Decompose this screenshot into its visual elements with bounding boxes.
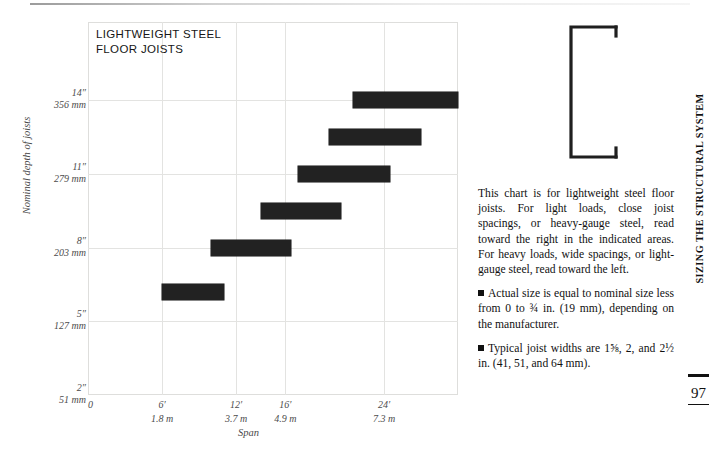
x-tick-feet: 6′ bbox=[127, 398, 197, 412]
y-tick-label: 2″51 mm bbox=[2, 382, 86, 406]
y-tick-metric: 203 mm bbox=[2, 247, 86, 259]
folio-rule-top bbox=[688, 374, 709, 377]
chart-x-axis: Span 06′1.8 m12′3.7 m16′4.9 m24′7.3 m bbox=[88, 398, 468, 438]
y-tick-inches: 8″ bbox=[2, 235, 86, 247]
x-tick-feet: 24′ bbox=[349, 398, 419, 412]
y-tick-inches: 11″ bbox=[2, 161, 86, 173]
y-tick-label: 8″203 mm bbox=[2, 235, 86, 259]
chart-x-axis-title: Span bbox=[238, 427, 259, 438]
y-tick-inches: 14″ bbox=[2, 87, 86, 99]
c-channel-section-diagram bbox=[566, 24, 622, 160]
chart-range-bar bbox=[298, 166, 391, 182]
y-tick-metric: 279 mm bbox=[2, 173, 86, 185]
scan-edge-artifact bbox=[30, 3, 690, 5]
x-tick-metric: 4.9 m bbox=[250, 412, 320, 426]
page-number: 97 bbox=[686, 385, 711, 402]
paragraph-intro: This chart is for lightweight steel floo… bbox=[478, 186, 674, 277]
bullet-square-icon bbox=[478, 345, 484, 351]
c-channel-icon bbox=[566, 24, 622, 160]
y-tick-label: 14″356 mm bbox=[2, 87, 86, 111]
gridline-vertical bbox=[384, 22, 385, 395]
bullet-actual-size-text: Actual size is equal to nominal size les… bbox=[478, 287, 674, 330]
y-tick-inches: 5″ bbox=[2, 308, 86, 320]
chart-title: LIGHTWEIGHT STEEL FLOOR JOISTS bbox=[96, 27, 221, 57]
y-tick-label: 11″279 mm bbox=[2, 161, 86, 185]
bullet-square-icon bbox=[478, 290, 484, 296]
x-tick-metric: 7.3 m bbox=[349, 412, 419, 426]
chart-range-bar bbox=[261, 203, 341, 219]
chart-plot-area: LIGHTWEIGHT STEEL FLOOR JOISTS bbox=[88, 22, 458, 395]
explanatory-text-block: This chart is for lightweight steel floo… bbox=[478, 186, 674, 371]
chart-range-bar bbox=[329, 129, 422, 145]
y-tick-metric: 127 mm bbox=[2, 320, 86, 332]
bullet-actual-size: Actual size is equal to nominal size les… bbox=[478, 286, 674, 332]
y-tick-metric: 356 mm bbox=[2, 99, 86, 111]
folio-rule-bottom bbox=[688, 404, 709, 405]
gridline-horizontal bbox=[88, 321, 458, 322]
chart-range-bar bbox=[211, 240, 291, 256]
x-tick-metric: 1.8 m bbox=[127, 412, 197, 426]
y-tick-metric: 51 mm bbox=[2, 394, 86, 406]
chart-range-bar bbox=[353, 92, 458, 108]
chart-y-axis-title: Nominal depth of joists bbox=[21, 96, 32, 236]
chart-range-bar bbox=[162, 284, 224, 300]
x-tick-label: 16′4.9 m bbox=[250, 398, 320, 426]
book-page: LIGHTWEIGHT STEEL FLOOR JOISTS 14″356 mm… bbox=[0, 0, 717, 473]
x-tick-label: 0 bbox=[88, 398, 118, 412]
x-tick-label: 6′1.8 m bbox=[127, 398, 197, 426]
y-tick-inches: 2″ bbox=[2, 382, 86, 394]
page-sidebar: SIZING THE STRUCTURAL SYSTEM 97 bbox=[686, 63, 712, 408]
gridline-horizontal bbox=[88, 174, 458, 175]
bullet-joist-widths: Typical joist widths are 1⅝, 2, and 2½ i… bbox=[478, 341, 674, 371]
running-head: SIZING THE STRUCTURAL SYSTEM bbox=[694, 68, 705, 310]
gridline-vertical bbox=[236, 22, 237, 395]
x-tick-label: 24′7.3 m bbox=[349, 398, 419, 426]
bullet-joist-widths-text: Typical joist widths are 1⅝, 2, and 2½ i… bbox=[478, 342, 674, 370]
y-tick-label: 5″127 mm bbox=[2, 308, 86, 332]
x-tick-feet: 0 bbox=[88, 398, 118, 412]
chart-y-axis: 14″356 mm11″279 mm8″203 mm5″127 mm2″51 m… bbox=[0, 22, 86, 395]
x-tick-feet: 16′ bbox=[250, 398, 320, 412]
gridline-vertical bbox=[162, 22, 163, 395]
